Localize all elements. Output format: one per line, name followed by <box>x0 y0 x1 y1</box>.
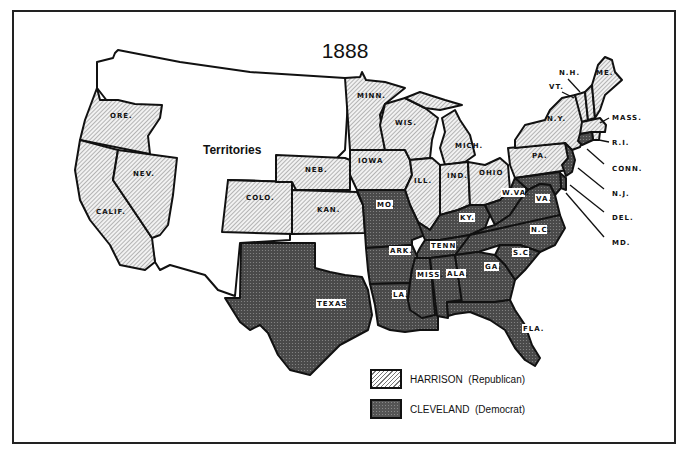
label-mo: MO. <box>377 201 395 209</box>
label-ohio: OHIO <box>479 169 503 177</box>
label-colo: COLO. <box>246 194 275 202</box>
label-neb: NEB. <box>305 166 328 174</box>
label-fla: FLA. <box>523 325 544 333</box>
label-ill: ILL. <box>414 177 432 185</box>
legend-label-harrison: HARRISON (Republican) <box>410 374 525 385</box>
legend-item-cleveland: CLEVELAND (Democrat) <box>370 398 525 420</box>
label-texas: TEXAS <box>317 300 347 308</box>
state-me <box>592 57 622 118</box>
label-ark: ARK. <box>390 247 413 255</box>
label-ore: ORE. <box>110 112 133 120</box>
label-miss: MISS. <box>417 271 444 279</box>
label-tenn: TENN. <box>431 242 460 250</box>
label-ky: KY. <box>460 214 475 222</box>
legend: HARRISON (Republican) CLEVELAND (Democra… <box>370 368 525 428</box>
legend-item-harrison: HARRISON (Republican) <box>370 368 525 390</box>
label-vt: VT. <box>549 83 564 91</box>
label-nj: N.J. <box>612 190 630 198</box>
label-me: ME. <box>596 69 613 77</box>
label-calif: CALIF. <box>96 208 126 216</box>
label-wva: W.VA. <box>502 189 530 197</box>
label-nh: N.H. <box>559 69 580 77</box>
state-iowa <box>350 150 412 190</box>
state-conn <box>578 132 593 145</box>
territories-label: Territories <box>203 143 262 157</box>
label-conn: CONN. <box>612 165 642 173</box>
label-minn: MINN. <box>357 92 386 100</box>
label-iowa: IOWA <box>358 157 383 165</box>
label-va: VA. <box>536 195 552 203</box>
label-ind: IND. <box>447 172 468 180</box>
state-colo <box>222 180 292 234</box>
label-ala: ALA. <box>447 270 469 278</box>
label-nev: NEV. <box>133 170 155 178</box>
legend-label-cleveland: CLEVELAND (Democrat) <box>410 404 525 415</box>
label-sc: S.C. <box>513 249 533 257</box>
label-kan: KAN. <box>317 206 340 214</box>
label-mich: MICH. <box>455 142 483 150</box>
label-mass: MASS. <box>612 114 642 122</box>
label-ri: R.I. <box>612 139 629 147</box>
label-pa: PA. <box>532 152 548 160</box>
state-texas <box>225 243 372 375</box>
stippled-swatch-icon <box>370 399 402 419</box>
label-md: MD. <box>612 239 630 247</box>
hatched-swatch-icon <box>370 369 402 389</box>
label-ga: GA. <box>485 263 502 271</box>
label-nc: N.C. <box>531 226 551 234</box>
label-del: DEL. <box>612 214 634 222</box>
label-wis: WIS. <box>395 119 417 127</box>
label-la: LA. <box>393 291 409 299</box>
us-electoral-map: ORE. CALIF. NEV. COLO. NEB. KAN. MINN. I… <box>0 0 690 457</box>
label-ny: N.Y. <box>547 115 566 123</box>
